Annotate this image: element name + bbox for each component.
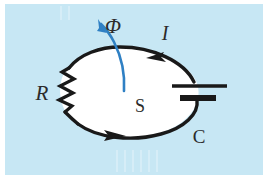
label-capacitor: C [193, 126, 206, 147]
label-surface: S [135, 96, 145, 116]
capacitor-plate-lower [180, 95, 216, 101]
figure-root: Φ I S R C [0, 0, 268, 179]
label-flux: Φ [105, 14, 121, 38]
circuit-diagram-svg: Φ I S R C [0, 0, 268, 179]
label-resistor: R [35, 81, 49, 105]
label-current: I [161, 22, 170, 44]
